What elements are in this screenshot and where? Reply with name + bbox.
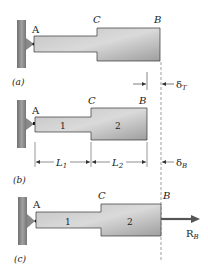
caption-a: (a) (12, 77, 25, 87)
point-a-label: A (32, 199, 41, 210)
arrowhead-icon (86, 160, 90, 164)
delta-t-label: δT (176, 79, 188, 92)
stepped-bar-diagram: A C B (a) δT 1 2 A C B L1 L2 (0, 0, 208, 276)
segment-1-label: 1 (65, 217, 71, 227)
wall-icon (17, 100, 26, 148)
wall-icon (18, 197, 27, 245)
pin-support-icon (27, 214, 35, 228)
wall-icon (17, 20, 26, 68)
delta-b-label: δB (176, 157, 187, 170)
point-a-label: A (31, 24, 40, 35)
force-arrow-icon (191, 215, 200, 223)
point-c-label: C (88, 95, 96, 106)
point-a-label: A (31, 105, 40, 116)
arrowhead-icon (142, 160, 146, 164)
arrowhead-icon (36, 160, 40, 164)
arrowhead-icon (92, 160, 96, 164)
panel-a: A C B (a) δT (12, 14, 188, 92)
segment-1-label: 1 (60, 121, 66, 131)
arrowhead-icon (162, 160, 166, 164)
stepped-bar (35, 108, 147, 140)
stepped-bar (36, 204, 161, 236)
pin-support-icon (26, 118, 34, 130)
caption-b: (b) (13, 175, 26, 185)
segment-2-label: 2 (115, 121, 121, 131)
arrowhead-icon (162, 82, 166, 86)
stepped-bar (34, 28, 160, 61)
panel-c: 1 2 A C B RB (c) (14, 190, 200, 264)
caption-c: (c) (14, 254, 27, 264)
arrowhead-icon (142, 82, 146, 86)
point-b-label: B (138, 95, 146, 106)
point-c-label: C (98, 190, 106, 201)
force-rb-label: RB (186, 228, 199, 241)
point-b-label: B (162, 190, 170, 201)
point-b-label: B (153, 14, 161, 25)
segment-2-label: 2 (127, 217, 133, 227)
point-c-label: C (93, 14, 101, 25)
